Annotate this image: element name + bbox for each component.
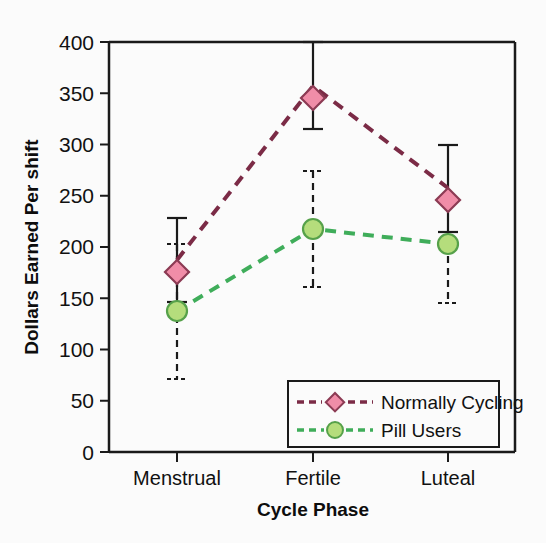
x-axis-ticks	[177, 452, 448, 462]
y-tick-label-100: 100	[59, 338, 94, 361]
legend-label-pill-users: Pill Users	[381, 420, 461, 441]
line-chart: 400 350 300 250 200 150 100 50 0 Menstru…	[0, 0, 546, 543]
x-tick-label-luteal: Luteal	[421, 467, 476, 489]
y-tick-label-150: 150	[59, 287, 94, 310]
y-axis-ticks	[100, 42, 109, 452]
x-tick-label-menstrual: Menstrual	[133, 467, 221, 489]
error-bars-pill-users	[177, 171, 448, 379]
y-tick-label-0: 0	[82, 441, 94, 464]
chart-page: 400 350 300 250 200 150 100 50 0 Menstru…	[0, 0, 546, 543]
y-tick-label-250: 250	[59, 184, 94, 207]
legend: Normally Cycling Pill Users	[288, 381, 524, 447]
y-tick-label-300: 300	[59, 133, 94, 156]
x-axis-title: Cycle Phase	[257, 499, 369, 520]
circle-marker-icon	[327, 422, 343, 438]
y-tick-label-50: 50	[71, 389, 94, 412]
y-tick-label-200: 200	[59, 235, 94, 258]
x-tick-label-fertile: Fertile	[285, 467, 341, 489]
legend-label-normally-cycling: Normally Cycling	[381, 392, 524, 413]
error-bar-caps-pill-users	[167, 171, 458, 379]
y-axis-title: Dollars Earned Per shift	[21, 139, 42, 355]
y-tick-label-350: 350	[59, 82, 94, 105]
y-tick-label-400: 400	[59, 31, 94, 54]
